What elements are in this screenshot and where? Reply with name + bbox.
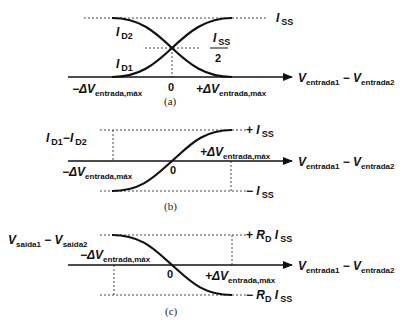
neg-delta-vin-max-label: −ΔVentrada,máx (80, 248, 151, 264)
half-iss-numerator: ISS (213, 31, 230, 47)
id2-label: ID2 (116, 25, 133, 41)
origin-label: 0 (167, 268, 173, 280)
pos-iss-label: + ISS (246, 123, 274, 139)
pos-delta-vin-max-label: +ΔVentrada,máx (200, 145, 271, 161)
panel-b: ID1−ID2 + ISS − ISS +ΔVentrada,máx −ΔVen… (46, 123, 395, 213)
neg-iss-label: − ISS (246, 184, 274, 200)
differential-pair-characteristics-diagram: ISS ISS 2 ID2 ID1 −ΔVentrada,máx 0 +ΔVen… (0, 0, 410, 327)
caption-c: (c) (165, 305, 178, 318)
origin-label: 0 (170, 164, 176, 176)
neg-delta-vin-max-label: −ΔVentrada,máx (62, 165, 133, 181)
y-axis-label: Vsaída1 − Vsaída2 (8, 233, 88, 249)
x-axis-label: Ventrada1 − Ventrada2 (298, 71, 395, 87)
half-iss-denominator: 2 (215, 52, 221, 64)
caption-b: (b) (164, 200, 177, 213)
caption-a: (a) (164, 95, 177, 108)
id1-label: ID1 (116, 57, 133, 73)
pos-delta-vin-max-label: +ΔVentrada,máx (196, 82, 267, 98)
panel-c: Vsaída1 − Vsaída2 + RD ISS − RD ISS −ΔVe… (8, 228, 395, 318)
x-axis-label: Ventrada1 − Ventrada2 (298, 259, 395, 275)
neg-delta-vin-max-label: −ΔVentrada,máx (72, 82, 143, 98)
panel-a: ISS ISS 2 ID2 ID1 −ΔVentrada,máx 0 +ΔVen… (68, 11, 395, 108)
pos-delta-vin-max-label: +ΔVentrada,máx (205, 269, 276, 285)
iss-label: ISS (276, 11, 293, 27)
y-axis-label: ID1−ID2 (46, 131, 87, 147)
x-axis-label: Ventrada1 − Ventrada2 (298, 155, 395, 171)
pos-rd-iss-label: + RD ISS (246, 228, 292, 244)
origin-label: 0 (168, 81, 174, 93)
neg-rd-iss-label: − RD ISS (246, 288, 292, 304)
